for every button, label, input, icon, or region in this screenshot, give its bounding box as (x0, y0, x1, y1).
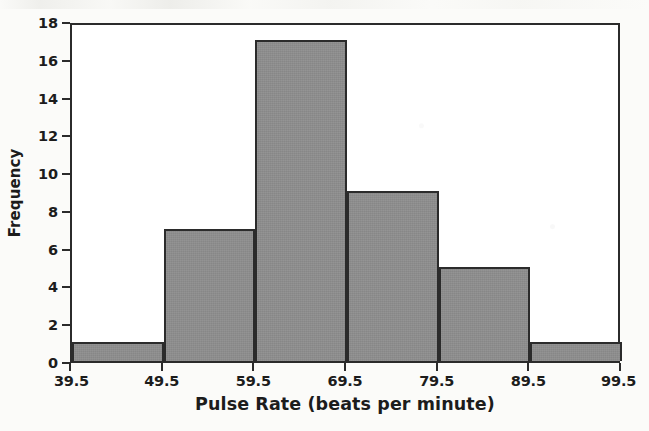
plot-area (70, 23, 620, 363)
histogram-bar (72, 342, 164, 361)
x-axis-tick-mark (344, 363, 346, 371)
y-axis-tick-label: 4 (48, 278, 58, 296)
histogram-figure: Frequency 024681012141618 39.549.559.569… (0, 0, 649, 431)
y-axis-title: Frequency (4, 123, 26, 263)
x-axis-tick-label: 49.5 (144, 373, 179, 389)
histogram-bar (255, 40, 347, 361)
histogram-bar (347, 191, 439, 361)
histogram-bar (439, 267, 531, 361)
x-axis-tick-label: 69.5 (328, 373, 363, 389)
y-axis-tick-label: 2 (48, 316, 58, 334)
y-axis-tick-mark (62, 98, 70, 100)
x-axis-tick-mark (527, 363, 529, 371)
y-axis-tick-label: 0 (48, 354, 58, 372)
y-axis-tick-mark (62, 60, 70, 62)
y-axis-tick-mark (62, 249, 70, 251)
x-axis-tick-label: 39.5 (54, 373, 89, 389)
y-axis-tick-mark (62, 22, 70, 24)
x-axis-tick-mark (252, 363, 254, 371)
y-axis-title-text: Frequency (6, 149, 24, 238)
y-axis-tick-mark (62, 286, 70, 288)
x-axis-tick-mark (69, 363, 71, 371)
histogram-bar (164, 229, 256, 361)
y-axis-tick-label: 12 (38, 127, 58, 145)
x-axis-tick-mark (436, 363, 438, 371)
y-axis-tick-label: 8 (48, 203, 58, 221)
y-axis-tick-label: 14 (38, 90, 58, 108)
y-axis-tick-label: 18 (38, 14, 58, 32)
x-axis-tick-mark (161, 363, 163, 371)
x-axis-tick-label: 99.5 (601, 373, 636, 389)
x-axis-title: Pulse Rate (beats per minute) (70, 394, 620, 414)
histogram-bar (530, 342, 622, 361)
x-axis-tick-mark (619, 363, 621, 371)
y-axis-tick-label: 16 (38, 52, 58, 70)
y-axis-tick-mark (62, 324, 70, 326)
y-axis-tick-label: 10 (38, 165, 58, 183)
x-axis-tick-label: 79.5 (419, 373, 454, 389)
x-axis-tick-label: 59.5 (236, 373, 271, 389)
y-axis-tick-mark (62, 211, 70, 213)
y-axis-tick-label: 6 (48, 241, 58, 259)
y-axis-tick-mark (62, 173, 70, 175)
y-axis-tick-mark (62, 135, 70, 137)
scan-artifact-band (0, 0, 649, 9)
x-axis-tick-label: 89.5 (511, 373, 546, 389)
